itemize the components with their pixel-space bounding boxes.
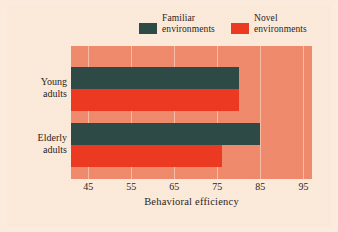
legend-swatch-novel xyxy=(231,23,249,34)
x-tick-label-45: 45 xyxy=(83,181,93,192)
x-tick-label-95: 95 xyxy=(298,181,308,192)
plot-area xyxy=(71,46,312,179)
chart-legend: Familiar environments Novel environments xyxy=(139,13,329,45)
x-axis-title: Behavioral efficiency xyxy=(71,196,312,207)
legend-label-familiar-line2: environments xyxy=(162,24,215,34)
y-axis-labels: Young adults Elderly adults xyxy=(7,46,67,179)
legend-item-novel: Novel environments xyxy=(231,13,307,35)
y-category-elderly-adults: Elderly adults xyxy=(9,132,67,155)
x-tick-label-55: 55 xyxy=(126,181,136,192)
x-tick-label-85: 85 xyxy=(255,181,265,192)
bar-group xyxy=(71,46,312,179)
legend-label-novel-line2: environments xyxy=(254,24,307,34)
x-tick-label-65: 65 xyxy=(169,181,179,192)
bar-elderly-adults-novel xyxy=(71,145,222,167)
legend-swatch-familiar xyxy=(139,23,157,34)
bar-elderly-adults-familiar xyxy=(71,123,260,145)
y-category-young-adults-line1: Young xyxy=(41,76,67,87)
legend-item-familiar: Familiar environments xyxy=(139,13,215,35)
legend-label-familiar-line1: Familiar xyxy=(162,13,195,23)
y-category-elderly-adults-line2: adults xyxy=(43,144,67,155)
y-category-young-adults: Young adults xyxy=(9,76,67,99)
y-category-elderly-adults-line1: Elderly xyxy=(38,132,67,143)
legend-label-familiar: Familiar environments xyxy=(162,13,215,35)
legend-label-novel-line1: Novel xyxy=(254,13,278,23)
y-category-young-adults-line2: adults xyxy=(43,88,67,99)
x-tick-label-75: 75 xyxy=(212,181,222,192)
figure-inner-panel: Familiar environments Novel environments… xyxy=(7,5,331,227)
bar-young-adults-novel xyxy=(71,89,239,111)
legend-label-novel: Novel environments xyxy=(254,13,307,35)
x-axis-tick-labels: 455565758595 xyxy=(71,181,312,195)
figure-container: Familiar environments Novel environments… xyxy=(0,0,338,232)
bar-young-adults-familiar xyxy=(71,67,239,89)
